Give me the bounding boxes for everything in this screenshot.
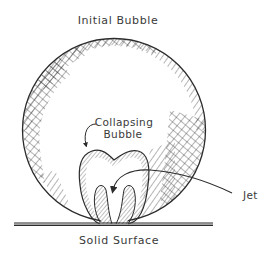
collapsing-bubble-label-line2: Bubble (104, 128, 143, 140)
bubble-collapse-diagram: Initial Bubble Collapsing Bubble (0, 0, 271, 255)
initial-bubble-label: Initial Bubble (78, 14, 159, 27)
collapsing-bubble-label-line1: Collapsing (95, 116, 153, 128)
solid-surface-label: Solid Surface (79, 234, 159, 247)
solid-surface (14, 223, 213, 226)
jet-label: Jet (242, 189, 258, 201)
